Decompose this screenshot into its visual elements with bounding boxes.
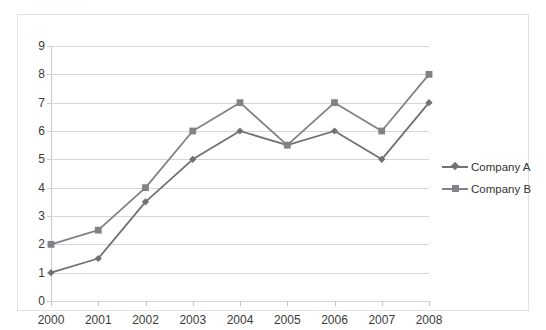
x-axis-tick-label: 2006 (321, 313, 348, 327)
x-axis-tick-label: 2003 (179, 313, 206, 327)
x-axis-tick-mark (429, 301, 430, 306)
cropped-header-text: · · · · · · · (0, 0, 546, 11)
x-axis-tick-mark (193, 301, 194, 306)
series-company-a (47, 99, 432, 276)
x-axis-tick-mark (287, 301, 288, 306)
x-axis-tick-mark (51, 301, 52, 306)
x-axis-tick-mark (240, 301, 241, 306)
y-axis-tick-label: 5 (38, 152, 45, 166)
y-axis-tick-label: 3 (38, 209, 45, 223)
x-axis-tick-label: 2001 (85, 313, 112, 327)
square-marker-icon (331, 99, 338, 106)
x-axis-tick-mark (382, 301, 383, 306)
series-company-b (48, 71, 433, 248)
legend-item[interactable]: Company A (442, 156, 538, 178)
x-axis-tick-label: 2000 (38, 313, 65, 327)
chart-frame: 0123456789 20002001200220032004200520062… (17, 14, 529, 311)
square-marker-icon (95, 227, 102, 234)
chart-legend: Company ACompany B (442, 156, 538, 200)
square-marker-icon (189, 128, 196, 135)
y-axis-tick-label: 4 (38, 181, 45, 195)
y-axis-tick-label: 0 (38, 294, 45, 308)
y-axis-tick-label: 7 (38, 96, 45, 110)
square-marker-icon (48, 241, 55, 248)
chart-screenshot: · · · · · · · 0123456789 200020012002200… (0, 0, 546, 330)
y-axis-tick-label: 8 (38, 67, 45, 81)
x-axis-tick-label: 2008 (416, 313, 443, 327)
y-axis-tick-label: 2 (38, 237, 45, 251)
square-marker-icon (142, 184, 149, 191)
plot-area: 0123456789 20002001200220032004200520062… (51, 46, 429, 301)
x-axis-tick-label: 2002 (132, 313, 159, 327)
x-axis-tick-mark (98, 301, 99, 306)
x-axis-tick-label: 2004 (227, 313, 254, 327)
legend-item[interactable]: Company B (442, 178, 538, 200)
square-marker-icon (284, 142, 291, 149)
y-axis-tick-label: 6 (38, 124, 45, 138)
square-marker-icon (378, 128, 385, 135)
legend-label: Company B (471, 183, 531, 195)
series-plot (51, 46, 429, 301)
x-axis-tick-mark (146, 301, 147, 306)
square-marker-icon (237, 99, 244, 106)
x-axis-tick-label: 2007 (368, 313, 395, 327)
square-marker-icon (442, 183, 468, 195)
square-marker-icon-glyph (452, 185, 459, 192)
y-axis-tick-label: 9 (38, 39, 45, 53)
diamond-marker-icon-glyph (451, 162, 459, 170)
square-marker-icon (426, 71, 433, 78)
diamond-marker-icon (47, 269, 54, 276)
diamond-marker-icon (442, 161, 468, 173)
legend-label: Company A (471, 161, 530, 173)
x-axis-tick-label: 2005 (274, 313, 301, 327)
x-axis-tick-mark (335, 301, 336, 306)
y-axis-tick-label: 1 (38, 266, 45, 280)
